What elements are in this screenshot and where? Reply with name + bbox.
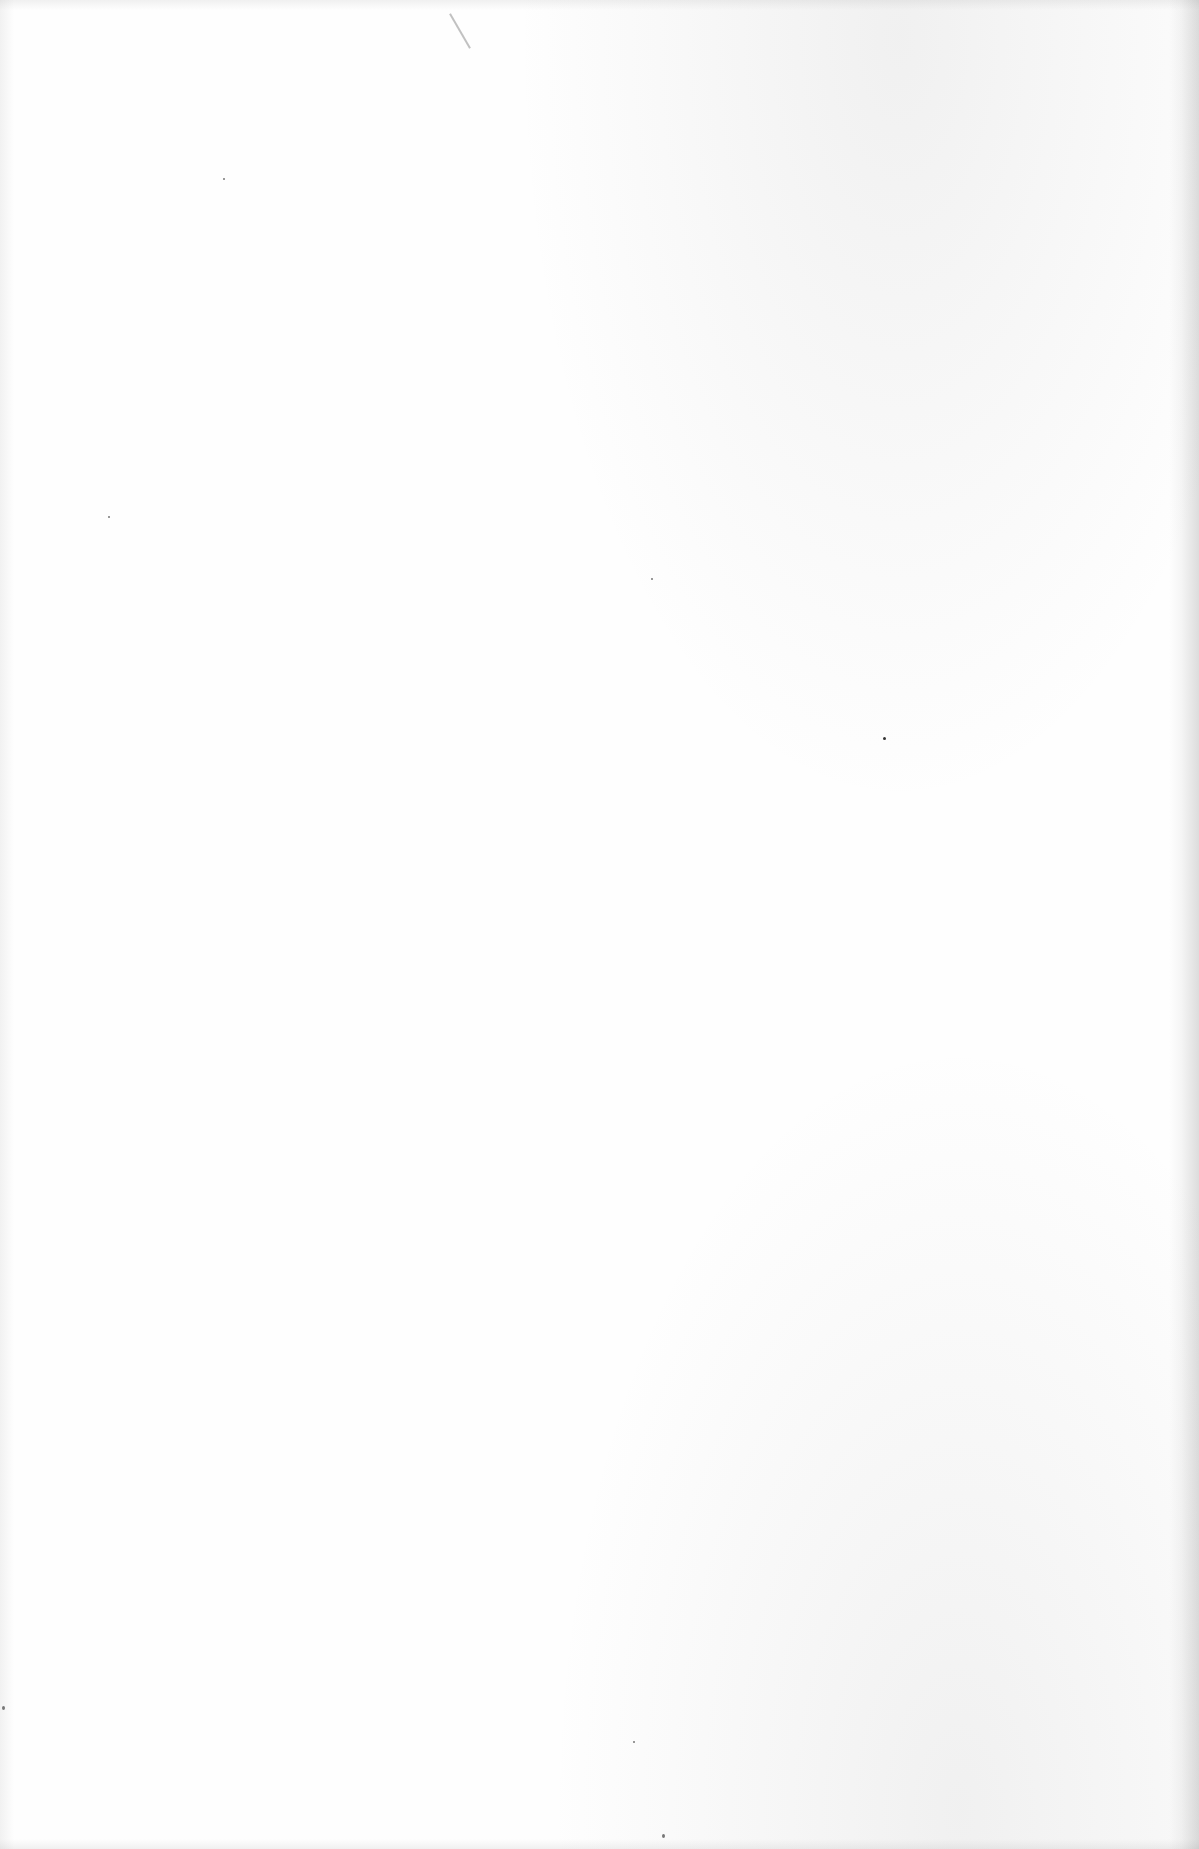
scan-speck	[651, 578, 653, 580]
scan-speck	[223, 178, 225, 180]
scan-speck	[883, 737, 886, 740]
blank-scanned-page	[0, 0, 1199, 1849]
scan-artifact-mark	[449, 13, 471, 49]
scan-speck	[662, 1834, 665, 1838]
scan-speck	[2, 1706, 5, 1710]
scan-speck	[108, 516, 110, 518]
scan-speck	[633, 1741, 635, 1743]
